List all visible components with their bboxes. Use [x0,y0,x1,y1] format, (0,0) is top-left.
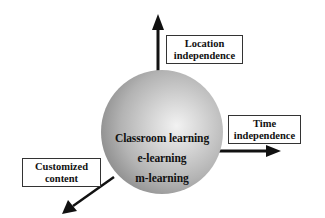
learning-sphere: Classroom learning e-learning m-learning [101,70,223,194]
arrow-up-icon [152,14,164,72]
time-independence-box: Time independence [228,115,301,144]
location-label-line1: Location [167,38,242,50]
location-independence-box: Location independence [166,35,243,64]
custom-label-line1: Customized [23,161,100,173]
label-m-learning: m-learning [101,172,223,184]
diagram-canvas: Classroom learning e-learning m-learning… [0,0,325,218]
label-e-learning: e-learning [101,152,223,164]
custom-label-line2: content [23,173,100,185]
customized-content-box: Customized content [22,158,101,187]
label-classroom-learning: Classroom learning [101,132,223,144]
time-label-line1: Time [229,118,300,130]
time-label-line2: independence [229,130,300,142]
arrow-right-icon [219,145,281,157]
location-label-line2: independence [167,50,242,62]
